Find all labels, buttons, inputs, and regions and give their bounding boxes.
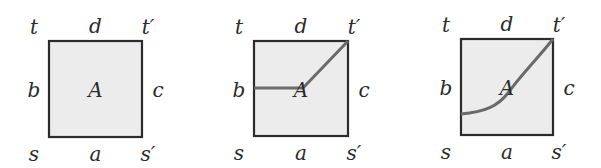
- label-s: s: [29, 144, 39, 164]
- label-c: c: [152, 80, 163, 100]
- label-t: t: [30, 17, 38, 37]
- label-d: d: [501, 14, 514, 34]
- label-center: A: [500, 78, 514, 98]
- label-t-prime: t′: [553, 15, 566, 35]
- label-s-prime: s′: [552, 142, 567, 162]
- label-b: b: [28, 80, 41, 100]
- label-d: d: [295, 16, 308, 36]
- label-t: t: [235, 17, 243, 37]
- label-a: a: [501, 142, 513, 162]
- label-a: a: [90, 144, 102, 164]
- label-c: c: [358, 80, 369, 100]
- label-t-prime: t′: [142, 17, 155, 37]
- label-t: t: [442, 15, 450, 35]
- label-center: A: [88, 80, 102, 100]
- label-b: b: [440, 78, 453, 98]
- label-s: s: [441, 142, 451, 162]
- label-t-prime: t′: [348, 17, 361, 37]
- label-s-prime: s′: [141, 144, 156, 164]
- label-s: s: [234, 143, 244, 163]
- label-c: c: [563, 78, 574, 98]
- label-a: a: [295, 143, 307, 163]
- label-d: d: [89, 16, 102, 36]
- label-b: b: [233, 80, 246, 100]
- label-center: A: [294, 80, 308, 100]
- label-s-prime: s′: [347, 143, 362, 163]
